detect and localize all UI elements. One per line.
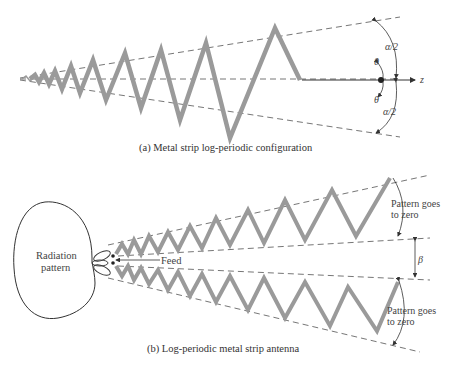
feed-label: Feed: [161, 255, 181, 266]
part-a-metal-strip: [30, 28, 300, 138]
z-axis-label: z: [420, 74, 424, 85]
alpha-half-top-label: α/2: [385, 41, 398, 52]
theta-bottom-label: θ: [374, 94, 379, 105]
feed-point-top: [111, 254, 115, 258]
part-a-configuration: [20, 17, 415, 138]
pattern-zero-top-line2: to zero: [391, 209, 419, 220]
part-b-antenna: [14, 175, 430, 352]
part-a-caption: (a) Metal strip log-periodic configurati…: [139, 142, 312, 153]
part-b-lower-strip: [116, 266, 398, 331]
pattern-zero-bottom-line1: Pattern goes: [387, 305, 436, 316]
pattern-zero-bottom-line2: to zero: [387, 316, 415, 327]
alpha-half-bottom-label: α/2: [383, 106, 396, 117]
beta-label: β: [418, 254, 423, 265]
radiation-pattern-label-line2: pattern: [41, 262, 70, 273]
radiation-pattern-label-line1: Radiation: [36, 250, 77, 261]
feed-point-bottom: [111, 261, 115, 265]
pattern-zero-top-line1: Pattern goes: [391, 198, 440, 209]
part-b-caption: (b) Log-periodic metal strip antenna: [147, 343, 299, 354]
theta-top-label: θ: [374, 56, 379, 67]
part-b-dashed-lines: [108, 175, 430, 352]
